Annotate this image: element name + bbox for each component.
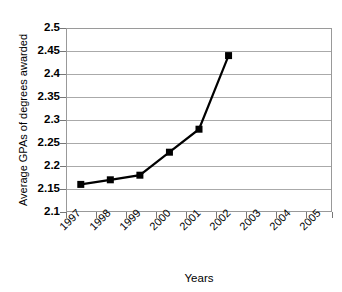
gridline: [67, 166, 331, 167]
y-tick-label: 2.35: [26, 91, 60, 102]
gridline: [67, 51, 331, 52]
y-tick-label: 2.25: [26, 137, 60, 148]
plot-area: [66, 28, 332, 212]
gridline: [67, 97, 331, 98]
line-chart: Average GPAs of degrees awarded 2.5 2.45…: [0, 0, 342, 292]
x-axis-title: Years: [66, 272, 332, 284]
gridline: [67, 143, 331, 144]
y-tick-label: 2.5: [26, 22, 60, 33]
gridline: [67, 189, 331, 190]
y-tick-label: 2.4: [26, 68, 60, 79]
gridline: [67, 74, 331, 75]
y-tick-label: 2.45: [26, 45, 60, 56]
x-tick-label: 1997: [57, 207, 83, 233]
y-tick-label: 2.15: [26, 183, 60, 194]
gridline: [67, 120, 331, 121]
y-axis-tick-labels: 2.5 2.45 2.4 2.35 2.3 2.25 2.2 2.15 2.1: [24, 0, 60, 292]
y-tick-label: 2.3: [26, 114, 60, 125]
y-tick-label: 2.1: [26, 206, 60, 217]
y-tick-label: 2.2: [26, 160, 60, 171]
x-tickmark: [332, 212, 333, 218]
